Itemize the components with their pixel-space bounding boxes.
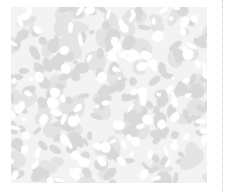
texture-patch: [169, 143, 178, 151]
texture-patch: [138, 94, 146, 105]
texture-patch: [184, 93, 192, 99]
texture-patch: [32, 126, 42, 136]
texture-patch: [78, 93, 89, 99]
texture-patch: [159, 7, 169, 15]
texture-patch: [34, 148, 41, 160]
texture-patch: [21, 117, 28, 122]
texture-patch: [74, 63, 90, 74]
texture-patch: [147, 74, 163, 89]
texture-patch: [19, 68, 29, 74]
texture-patch: [11, 158, 14, 164]
texture-patch: [127, 76, 138, 87]
texture-patch: [115, 155, 127, 168]
texture-patch: [47, 177, 55, 183]
dotted-divider: [222, 0, 223, 192]
texture-patch: [121, 140, 127, 151]
texture-patch: [48, 143, 62, 155]
texture-patch: [200, 135, 207, 147]
texture-patch: [193, 59, 202, 69]
texture-patch: [87, 131, 93, 140]
texture-patch: [88, 29, 95, 35]
texture-patch: [21, 131, 31, 141]
texture-patch: [128, 151, 135, 158]
canvas: [0, 0, 230, 192]
texture-patch: [172, 173, 179, 183]
texture-patch: [151, 29, 166, 44]
texture-patch: [78, 138, 84, 147]
texture-patch: [20, 145, 28, 155]
texture-patch: [206, 7, 207, 20]
texture-patch: [171, 130, 180, 139]
texture-patch: [170, 75, 175, 80]
texture-patch: [200, 172, 207, 183]
texture-thumbnail[interactable]: [11, 7, 207, 183]
texture-patch: [195, 119, 206, 124]
texture-patch: [108, 178, 118, 183]
texture-patch: [28, 44, 42, 62]
texture-patch: [112, 119, 125, 130]
